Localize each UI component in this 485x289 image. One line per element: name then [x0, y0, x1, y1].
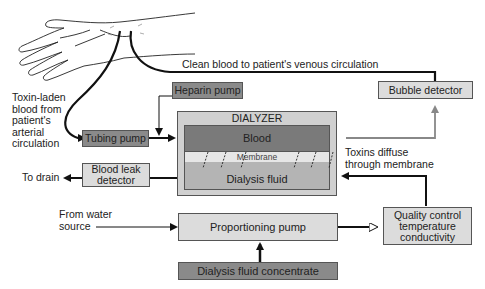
proportioning-pump-box: Proportioning pump: [178, 213, 338, 241]
to-drain-label: To drain: [22, 172, 59, 184]
toxins-diffuse-label: Toxins diffuse through membrane: [345, 147, 434, 170]
dialysis-fluid-concentrate-box: Dialysis fluid concentrate: [178, 262, 338, 280]
puncture-sites: [108, 24, 144, 35]
diffusion-arrows: [178, 112, 338, 197]
heparin-pump-box: Heparin pump: [172, 82, 243, 99]
blood-to-bubble: [346, 107, 435, 138]
venous-line: [131, 31, 435, 82]
blood-leak-detector-box: Blood leak detector: [82, 163, 150, 187]
arterial-line: [65, 31, 120, 138]
dialyzer: DIALYZER Blood Membrane Dialysis fluid: [177, 111, 337, 196]
quality-control-box: Quality control temperature conductivity: [383, 207, 472, 245]
bubble-detector-box: Bubble detector: [378, 81, 473, 99]
toxin-laden-label: Toxin-laden blood from patient's arteria…: [12, 92, 66, 150]
qc-to-dialyzer: [343, 176, 426, 206]
clean-blood-label: Clean blood to patient's venous circulat…: [182, 59, 378, 71]
hand-illustration: [19, 13, 195, 80]
tubing-pump-box: Tubing pump: [82, 130, 149, 147]
from-water-label: From water source: [59, 209, 112, 232]
